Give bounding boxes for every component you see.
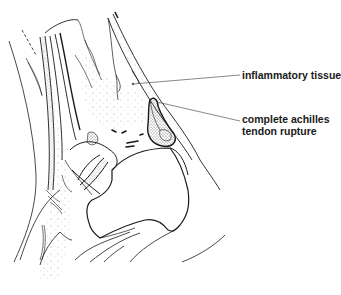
label-line-2: tendon rupture	[242, 125, 330, 137]
skin-contour	[9, 30, 36, 262]
leader-inflammatory	[133, 75, 240, 84]
fragments	[112, 130, 143, 147]
inflammatory-region	[79, 45, 150, 130]
label-line-1: complete achilles	[242, 113, 330, 125]
label-complete-achilles-tendon-rupture: complete achilles tendon rupture	[242, 113, 330, 137]
label-inflammatory-tissue: inflammatory tissue	[242, 69, 341, 81]
